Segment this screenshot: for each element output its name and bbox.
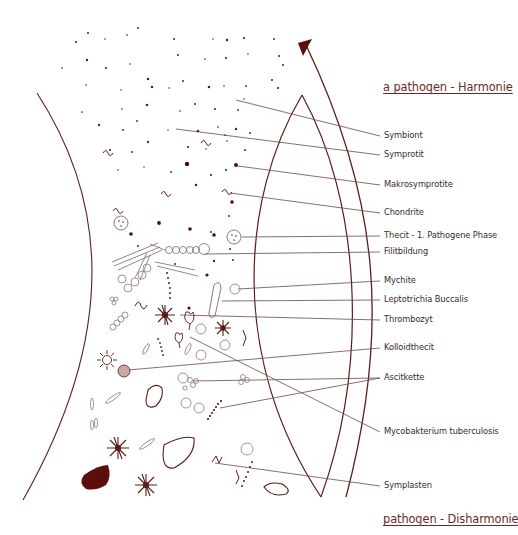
label-symbiont: Symbiont xyxy=(384,130,423,140)
scatter-dots xyxy=(61,27,284,265)
sun-organism xyxy=(97,350,117,370)
leader-line-symplasten xyxy=(215,463,380,486)
label-leptotrichia: Leptotrichia Buccalis xyxy=(384,294,468,304)
leader-line-symprotit xyxy=(176,129,380,155)
filled-blob xyxy=(81,465,109,490)
tulip-organisms xyxy=(175,312,194,348)
left-arc-boundary xyxy=(23,93,92,500)
label-chondrite: Chondrite xyxy=(384,207,424,217)
leader-line-kolloidthecit xyxy=(128,348,380,370)
lens-right-arc xyxy=(302,95,352,497)
label-thrombozyt: Thrombozyt xyxy=(384,314,433,324)
leader-line-thrombozyt xyxy=(180,315,380,320)
dotted-chains xyxy=(157,272,253,487)
vesicle-thecit xyxy=(114,216,241,244)
diagram-stage: a pathogen - Harmonie pathogen - Disharm… xyxy=(0,0,518,535)
blob-outlines xyxy=(146,385,288,495)
label-ascitkette: Ascitkette xyxy=(384,372,424,382)
label-symplasten: Symplasten xyxy=(384,480,432,490)
leader-line-thecit xyxy=(242,236,380,237)
leader-line-leptotrichia xyxy=(222,300,380,301)
leader-line-chondrite xyxy=(230,193,380,213)
heading-harmonie: a pathogen - Harmonie xyxy=(383,80,513,94)
rod-outlines xyxy=(91,343,193,451)
hollow-circles xyxy=(110,264,253,455)
label-thecit: Thecit - 1. Pathogene Phase xyxy=(384,230,497,240)
leader-line-ascitkette xyxy=(193,378,380,381)
kolloidthecit-sphere xyxy=(118,365,130,377)
label-mycobakterium: Mycobakterium tuberculosis xyxy=(384,426,499,436)
leader-line-mychite xyxy=(238,281,380,289)
label-mychite: Mychite xyxy=(384,275,416,285)
label-kolloidthecit: Kolloidthecit xyxy=(384,342,434,352)
leader-line-filitbildung xyxy=(205,252,380,254)
leader-line-ascitkette xyxy=(220,378,380,408)
label-filitbildung: Filitbildung xyxy=(384,246,428,256)
upward-arrow-shaft xyxy=(306,45,372,497)
leptotrichia-rod xyxy=(209,283,221,318)
leader-line-makrosymprotite xyxy=(238,166,380,185)
label-symprotit: Symprotit xyxy=(384,149,424,159)
heading-disharmonie: pathogen - Disharmonie xyxy=(383,512,518,526)
filit-bundle xyxy=(112,243,198,280)
label-makrosymprotite: Makrosymprotite xyxy=(384,179,453,189)
large-dots xyxy=(129,162,238,310)
filit-chain xyxy=(166,244,210,255)
vesicle-inner-dots xyxy=(118,220,237,241)
lens-left-arc xyxy=(254,95,321,497)
